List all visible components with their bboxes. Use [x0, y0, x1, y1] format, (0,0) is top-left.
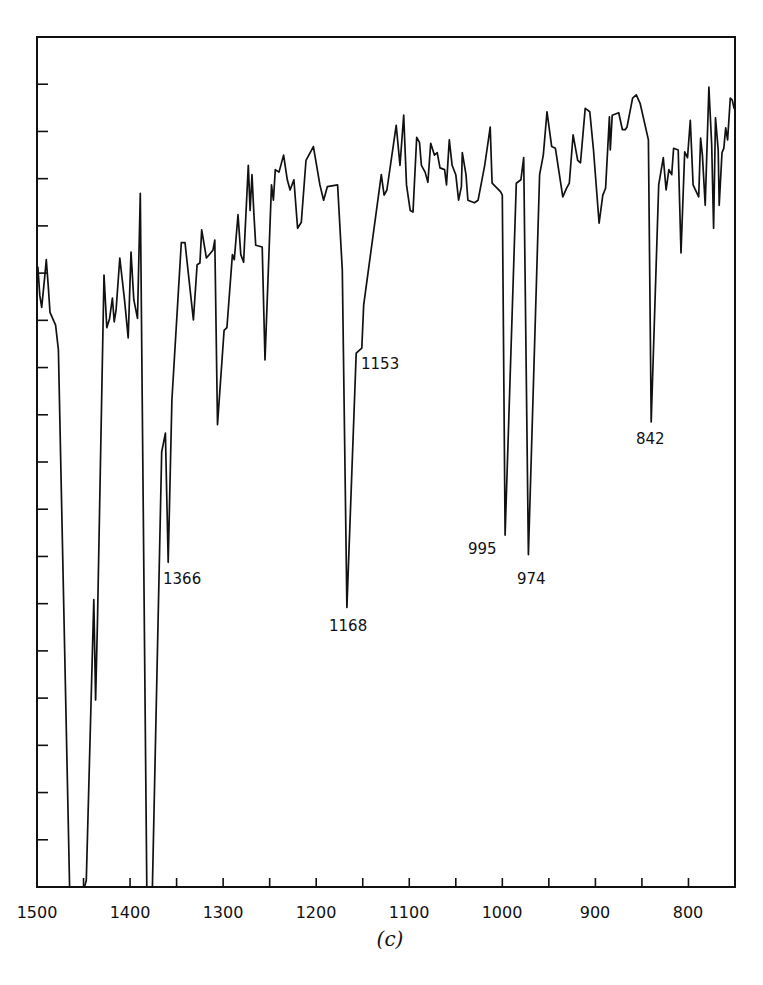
x-tick-label-800: 800	[673, 903, 704, 922]
peak-label-1168: 1168	[329, 617, 367, 635]
x-tick-label-1300: 1300	[203, 903, 244, 922]
peak-label-974: 974	[517, 570, 546, 588]
x-tick-label-1100: 1100	[389, 903, 430, 922]
peak-annotations: 1366 1168 1153 995 974 842	[163, 355, 665, 635]
plot-area	[37, 37, 735, 887]
x-tick-label-900: 900	[580, 903, 611, 922]
y-axis-ticks	[37, 84, 48, 840]
plot-frame	[37, 37, 735, 887]
peak-label-1153: 1153	[361, 355, 399, 373]
x-axis-ticks	[84, 878, 735, 887]
peak-label-995: 995	[468, 540, 497, 558]
x-tick-label-1000: 1000	[482, 903, 523, 922]
x-axis-labels: 1500 1400 1300 1200 1100 1000 900 800	[17, 903, 704, 922]
x-tick-label-1200: 1200	[296, 903, 337, 922]
x-tick-label-1400: 1400	[110, 903, 151, 922]
peak-label-1366: 1366	[163, 570, 201, 588]
spectrum-line	[38, 87, 734, 887]
figure-caption: (c)	[377, 927, 404, 951]
x-tick-label-1500: 1500	[17, 903, 58, 922]
peak-label-842: 842	[636, 430, 665, 448]
ir-spectrum-chart: 1500 1400 1300 1200 1100 1000 900 800 13…	[0, 0, 763, 985]
